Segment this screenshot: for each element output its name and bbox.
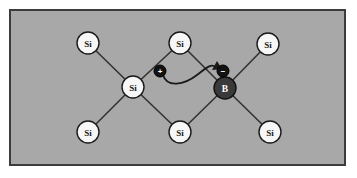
atom-b-dopant[interactable]: B (214, 77, 236, 99)
charge-symbol: − (221, 67, 226, 76)
atom-label: Si (84, 128, 92, 138)
atom-label: Si (176, 39, 184, 49)
atom-si-top-middle[interactable]: Si (169, 32, 191, 54)
atom-label: Si (176, 128, 184, 138)
atom-si-top-left[interactable]: Si (77, 32, 99, 54)
atom-si-bottom-right[interactable]: Si (259, 121, 281, 143)
atom-si-top-right[interactable]: Si (257, 33, 279, 55)
atom-label: Si (266, 128, 274, 138)
charge-symbol: + (158, 67, 163, 76)
atom-label: Si (264, 40, 272, 50)
atom-si-bottom-left[interactable]: Si (77, 121, 99, 143)
acceptor-charge-marker[interactable]: − (217, 65, 229, 77)
atom-label: Si (84, 39, 92, 49)
silicon-boron-lattice-figure: Si Si Si Si Si Si Si B (0, 0, 357, 178)
atom-si-bottom-middle[interactable]: Si (169, 121, 191, 143)
atom-label: B (222, 84, 229, 94)
hole-charge-marker[interactable]: + (154, 65, 166, 77)
lattice-diagram: Si Si Si Si Si Si Si B (0, 0, 357, 178)
atom-label: Si (129, 83, 137, 93)
atom-si-center[interactable]: Si (122, 76, 144, 98)
